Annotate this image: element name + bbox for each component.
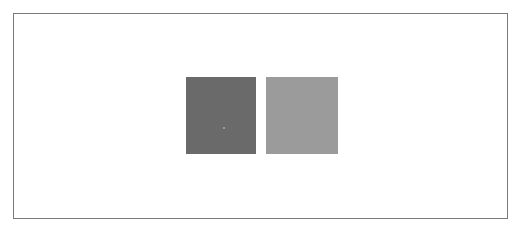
swatch-light-gray: [266, 77, 338, 154]
speck: [223, 127, 225, 129]
swatch-dark-gray: [186, 77, 256, 154]
canvas-frame: [13, 13, 508, 219]
